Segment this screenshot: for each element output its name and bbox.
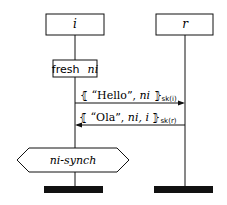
message-ola-label: ⦃ “Ola”, ni, i ⦄sk(r) — [79, 111, 177, 125]
role-box-i: i — [46, 14, 104, 35]
fresh-event-box: fresh ni — [52, 58, 98, 78]
end-bar-r — [154, 186, 213, 193]
role-label-i: i — [73, 17, 77, 31]
msc-diagram: i r fresh ni ⦃ “Hello”, ni ⦄sk(i) ⦃ “Ola… — [0, 0, 227, 205]
fresh-variable: ni — [88, 63, 99, 76]
arrowhead-right-icon — [178, 101, 185, 106]
message-ola: ⦃ “Ola”, ni, i ⦄sk(r) — [75, 111, 185, 128]
end-bar-i — [44, 186, 103, 193]
role-box-r: r — [156, 14, 213, 35]
claim-label: ni-synch — [50, 154, 97, 167]
claim-ni-synch: ni-synch — [17, 148, 129, 172]
fresh-keyword: fresh — [52, 63, 80, 76]
message-hello: ⦃ “Hello”, ni ⦄sk(i) — [75, 89, 185, 106]
message-hello-label: ⦃ “Hello”, ni ⦄sk(i) — [80, 89, 177, 103]
